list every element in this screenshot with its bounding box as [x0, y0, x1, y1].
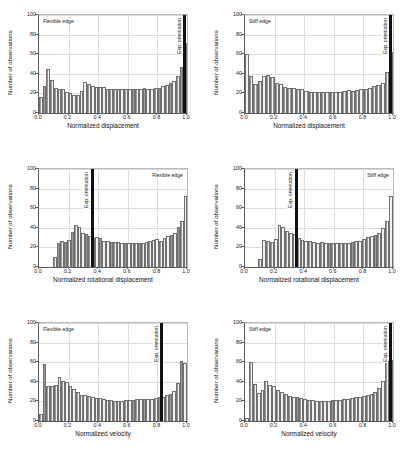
y-axis-label: Number of observations: [6, 14, 13, 112]
histogram-bars: [39, 323, 187, 421]
plot-area: Exp. orientationFlexible edge: [38, 322, 188, 422]
y-axis-label: Number of observations: [6, 168, 13, 266]
panel-middle-right: Number of observations0204060801000.00.2…: [206, 154, 412, 308]
y-axis-label: Number of observations: [6, 322, 13, 420]
plot-area: Exp. orientationStiff edge: [244, 322, 394, 422]
panel-corner-label: Stiff edge: [248, 18, 272, 24]
histogram-bars: [245, 323, 393, 421]
y-tick-label: 80: [14, 339, 36, 345]
histogram-bar: [184, 196, 188, 267]
y-axis-label: Number of observations: [212, 14, 219, 112]
exp-orientation-line: [91, 169, 94, 267]
y-tick-label: 100: [220, 11, 242, 17]
y-tick-label: 100: [14, 165, 36, 171]
histogram-bar: [183, 363, 187, 421]
x-axis-label: Normalized velocity: [0, 430, 206, 437]
y-tick-label: 20: [14, 89, 36, 95]
y-tick-label: 20: [14, 243, 36, 249]
y-tick-label: 20: [220, 243, 242, 249]
exp-orientation-line: [389, 15, 392, 113]
y-tick-label: 80: [220, 185, 242, 191]
x-axis-label: Normalized displacement: [206, 122, 412, 129]
y-tick-label: 60: [14, 50, 36, 56]
y-tick-label: 80: [14, 185, 36, 191]
exp-orientation-line: [295, 169, 298, 267]
y-tick-label: 20: [14, 397, 36, 403]
y-tick-label: 20: [220, 397, 242, 403]
plot-area: Exp. orientationFlexible edge: [38, 14, 188, 114]
y-tick-label: 100: [220, 165, 242, 171]
histogram-bars: [258, 169, 393, 267]
figure-root: Number of observations0204060801000.00.2…: [0, 0, 412, 462]
exp-orientation-label: Exp. orientation: [382, 325, 388, 363]
y-tick-label: 80: [220, 339, 242, 345]
x-axis-label: Normalized rotational displacement: [0, 276, 206, 283]
y-tick-label: 40: [220, 70, 242, 76]
exp-orientation-label: Exp. orientation: [176, 17, 182, 55]
panel-corner-label: Flexible edge: [42, 18, 75, 24]
y-tick-label: 60: [220, 50, 242, 56]
y-tick-label: 40: [220, 224, 242, 230]
plot-area: Exp. orientationStiff edge: [244, 14, 394, 114]
y-axis-label: Number of observations: [212, 322, 219, 420]
y-tick-label: 80: [14, 31, 36, 37]
exp-orientation-label: Exp. orientation: [382, 17, 388, 55]
y-tick-label: 100: [220, 319, 242, 325]
exp-orientation-label: Exp. orientation: [153, 325, 159, 363]
plot-area: Exp. orientationFlexible edge: [38, 168, 188, 268]
exp-orientation-line: [160, 323, 163, 421]
y-tick-label: 40: [220, 378, 242, 384]
y-tick-label: 60: [14, 204, 36, 210]
panel-corner-label: Stiff edge: [248, 326, 272, 332]
y-tick-label: 100: [14, 11, 36, 17]
y-axis-label: Number of observations: [212, 168, 219, 266]
panel-top-left: Number of observations0204060801000.00.2…: [0, 0, 206, 154]
plot-area: Exp. orientationStiff edge: [244, 168, 394, 268]
y-tick-label: 60: [220, 358, 242, 364]
histogram-bars: [245, 15, 393, 113]
y-tick-label: 80: [220, 31, 242, 37]
panel-top-right: Number of observations0204060801000.00.2…: [206, 0, 412, 154]
panel-corner-label: Flexible edge: [42, 326, 75, 332]
exp-orientation-line: [389, 323, 392, 421]
y-tick-label: 60: [220, 204, 242, 210]
histogram-bars: [39, 15, 187, 113]
y-tick-label: 100: [14, 319, 36, 325]
x-axis-label: Normalized displacement: [0, 122, 206, 129]
x-axis-label: Normalized velocity: [206, 430, 412, 437]
y-tick-label: 20: [220, 89, 242, 95]
exp-orientation-label: Exp. orientation: [287, 171, 293, 209]
histogram-bar: [389, 196, 393, 267]
panel-middle-left: Number of observations0204060801000.00.2…: [0, 154, 206, 308]
histogram-bars: [53, 169, 187, 267]
panel-bottom-right: Number of observations0204060801000.00.2…: [206, 308, 412, 462]
x-axis-label: Normalized rotational displacement: [206, 276, 412, 283]
panel-corner-label: Flexible edge: [151, 172, 184, 178]
exp-orientation-label: Exp. orientation: [83, 171, 89, 209]
y-tick-label: 40: [14, 378, 36, 384]
y-tick-label: 40: [14, 70, 36, 76]
y-tick-label: 40: [14, 224, 36, 230]
panel-corner-label: Stiff edge: [366, 172, 390, 178]
panel-bottom-left: Number of observations0204060801000.00.2…: [0, 308, 206, 462]
exp-orientation-line: [183, 15, 186, 113]
y-tick-label: 60: [14, 358, 36, 364]
